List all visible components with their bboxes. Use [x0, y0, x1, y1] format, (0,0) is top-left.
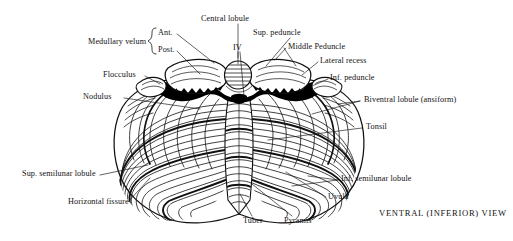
- flocculus-structure: [136, 77, 166, 96]
- label-ant: Ant.: [158, 28, 173, 37]
- figure-canvas: Medullary velum Ant. Post. Central lobul…: [0, 0, 513, 241]
- label-post: Post.: [158, 45, 175, 54]
- label-inf-semilunar-lobule: Inf. semilunar lobule: [341, 174, 412, 183]
- label-sup-semilunar-lobule: Sup. semilunar lobule: [22, 169, 96, 178]
- label-lateral-recess: Lateral recess: [320, 56, 367, 65]
- label-fourth-ventricle: IV: [233, 43, 242, 52]
- view-caption: VENTRAL (INFERIOR) VIEW: [379, 209, 507, 218]
- medullary-velum-brace: [148, 28, 156, 54]
- label-tonsil: Tonsil: [366, 122, 387, 131]
- vermis: [225, 100, 253, 214]
- label-inf-peduncle: Inf. peduncle: [330, 73, 375, 82]
- label-medullary-velum: Medullary velum: [88, 37, 146, 46]
- label-biventral-lobule: Biventral lobule (ansiform): [364, 95, 456, 104]
- label-flocculus: Flocculus: [103, 70, 136, 79]
- label-central-lobule: Central lobule: [201, 14, 249, 23]
- label-pyramis: Pyramis: [284, 216, 312, 225]
- label-sup-peduncle: Sup. peduncle: [253, 28, 301, 37]
- label-nodulus: Nodulus: [83, 92, 111, 101]
- label-tuber: Tuber: [243, 216, 263, 225]
- label-middle-peduncle: Middle Peduncle: [288, 42, 345, 51]
- central-lobule-structure: [224, 61, 252, 89]
- label-horizontal-fissure: Horizontal fissure: [68, 197, 129, 206]
- leader-ant: [177, 34, 214, 63]
- label-uvula: Uvula: [328, 192, 349, 201]
